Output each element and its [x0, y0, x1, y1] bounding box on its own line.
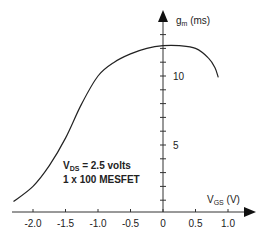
x-axis-arrow-icon: [244, 207, 256, 217]
y-tick-label: 5: [173, 140, 179, 151]
x-tick-label: 0: [160, 218, 166, 229]
annotation-conditions: VDS = 2.5 volts: [63, 160, 131, 172]
x-tick-label: -2.0: [24, 218, 42, 229]
x-tick-label: 1.0: [221, 218, 235, 229]
x-tick-label: -1.0: [89, 218, 107, 229]
x-axis-label: VGS (V): [207, 194, 240, 206]
axes: [12, 10, 256, 217]
annotation-device: 1 x 100 MESFET: [63, 174, 140, 185]
transconductance-chart: -2.0-1.5-1.0-0.500.51.0 510 gm (ms) VGS …: [0, 0, 266, 238]
x-tick-label: -0.5: [122, 218, 140, 229]
y-tick-label: 10: [173, 71, 185, 82]
y-axis-label: gm (ms): [176, 15, 210, 27]
x-tick-label: -1.5: [57, 218, 75, 229]
x-tick-label: 0.5: [189, 218, 203, 229]
y-ticks: 510: [160, 35, 185, 201]
y-axis-arrow-icon: [158, 10, 168, 22]
